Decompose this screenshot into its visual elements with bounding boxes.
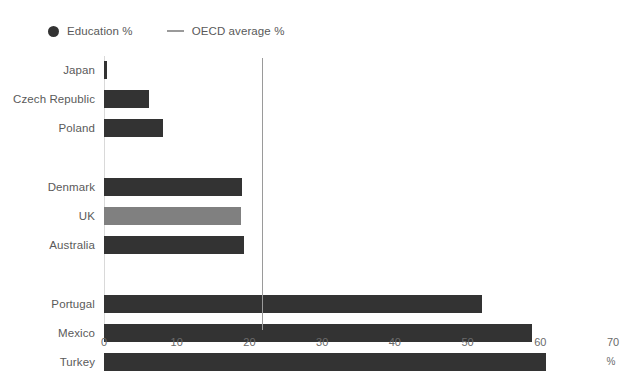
x-axis-tick-60: 60: [520, 336, 560, 348]
bar-row: Poland: [0, 117, 641, 139]
bar-portugal: [104, 295, 482, 313]
legend-label-oecd-average: OECD average %: [192, 25, 285, 37]
bar-row: UK: [0, 205, 641, 227]
bar-japan: [104, 61, 107, 79]
legend-line-icon: [167, 30, 184, 32]
category-label-australia: Australia: [0, 234, 95, 256]
category-label-japan: Japan: [0, 59, 95, 81]
bar-poland: [104, 119, 163, 137]
bar-australia: [104, 236, 244, 254]
x-axis-tick-50: 50: [448, 336, 488, 348]
legend-label-education: Education %: [67, 25, 133, 37]
x-axis-unit-label: %: [591, 356, 631, 367]
category-label-denmark: Denmark: [0, 176, 95, 198]
x-axis-tick-20: 20: [229, 336, 269, 348]
bar-row: Australia: [0, 234, 641, 256]
bar-czech-republic: [104, 90, 149, 108]
x-axis-tick-10: 10: [157, 336, 197, 348]
legend-item-oecd-average: OECD average %: [167, 25, 285, 37]
x-axis-tick-30: 30: [302, 336, 342, 348]
x-axis: 010203040506070: [0, 336, 641, 356]
legend-dot-icon: [48, 26, 59, 37]
chart-legend: Education % OECD average %: [48, 20, 284, 42]
bar-chart: Education % OECD average % JapanCzech Re…: [0, 0, 641, 385]
category-label-portugal: Portugal: [0, 293, 95, 315]
bar-row: Japan: [0, 59, 641, 81]
x-axis-tick-70: 70: [593, 336, 633, 348]
plot-area: JapanCzech RepublicPolandDenmarkUKAustra…: [0, 56, 641, 336]
bar-row: Portugal: [0, 293, 641, 315]
bar-uk: [104, 207, 241, 225]
bar-denmark: [104, 178, 242, 196]
category-label-uk: UK: [0, 205, 95, 227]
oecd-average-reference-line: [262, 58, 264, 330]
bar-row: Denmark: [0, 176, 641, 198]
x-axis-tick-40: 40: [375, 336, 415, 348]
category-label-czech-republic: Czech Republic: [0, 88, 95, 110]
x-axis-tick-0: 0: [84, 336, 124, 348]
legend-item-education: Education %: [48, 25, 133, 37]
bar-row: Czech Republic: [0, 88, 641, 110]
category-label-poland: Poland: [0, 117, 95, 139]
